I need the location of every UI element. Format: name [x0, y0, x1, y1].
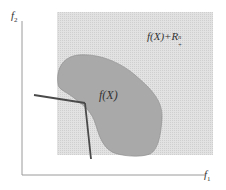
- y-axis-label: f2: [11, 9, 18, 24]
- dominated-region-label-main: f(X)+R: [147, 30, 178, 42]
- x-axis-label-sub: 1: [207, 175, 211, 183]
- dominated-region-label-sup: n: [178, 34, 181, 40]
- x-axis-label: f1: [204, 168, 211, 183]
- image-set-label: f(X): [99, 88, 118, 103]
- image-set-label-text: f(X): [99, 88, 118, 102]
- dominated-region-label: f(X)+Rn+: [147, 30, 183, 42]
- dominated-region-label-sub: +: [178, 42, 181, 48]
- y-axis-label-sub: 2: [14, 16, 18, 24]
